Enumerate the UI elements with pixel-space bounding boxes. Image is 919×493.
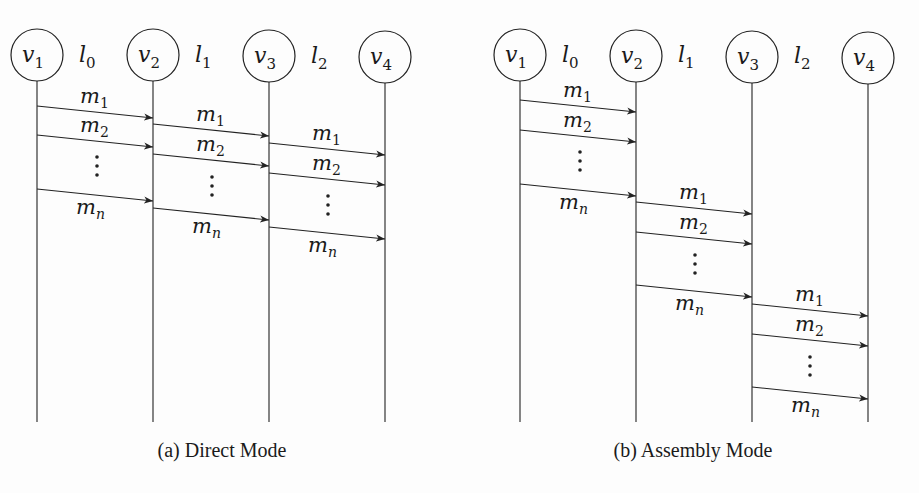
message-m2-label-subscript: 2 bbox=[216, 143, 225, 159]
message-mn-label-subscript: n bbox=[96, 206, 105, 222]
message-m1-label: m1 bbox=[795, 282, 824, 309]
message-mn-label-main: m bbox=[791, 393, 811, 417]
message-mn-label-subscript: n bbox=[811, 404, 820, 420]
link-l1-label: l1 bbox=[678, 42, 695, 72]
message-m2-label: m2 bbox=[312, 151, 341, 178]
message-m1-label: m1 bbox=[196, 102, 225, 129]
message-mn-label-subscript: n bbox=[212, 225, 221, 241]
message-m1-label: m1 bbox=[312, 121, 341, 148]
message-mn-label-main: m bbox=[308, 233, 328, 257]
message-m1-label-subscript: 1 bbox=[699, 191, 708, 207]
link-l0-label: l0 bbox=[79, 42, 96, 72]
caption-b: (b) Assembly Mode bbox=[614, 439, 773, 462]
message-m1-label-main: m bbox=[80, 84, 100, 108]
node-v1-label-main: v bbox=[22, 42, 35, 67]
message-mn-label: mn bbox=[791, 393, 820, 420]
message-m2-label: m2 bbox=[679, 210, 708, 237]
node-v3-label-subscript: 3 bbox=[266, 55, 276, 73]
node-v2-label-subscript: 2 bbox=[150, 54, 160, 72]
node-v3-label: v3 bbox=[737, 44, 759, 74]
node-v1-label: v1 bbox=[505, 42, 527, 72]
assembly-mode-figure: v1v2v3v4l0l1l2m1m2mnm1m2mnm1m2mn(b) Asse… bbox=[494, 29, 894, 462]
node-v3-label-subscript: 3 bbox=[749, 56, 759, 74]
link-l1-label: l1 bbox=[195, 42, 212, 72]
message-m1-label-main: m bbox=[312, 121, 332, 145]
message-mn-label-main: m bbox=[192, 214, 212, 238]
message-m1-label: m1 bbox=[563, 78, 592, 105]
message-m2-label-subscript: 2 bbox=[100, 124, 109, 140]
link-l0-label-main: l bbox=[562, 42, 569, 67]
node-v4-label-main: v bbox=[853, 45, 866, 70]
node-v2-label-subscript: 2 bbox=[633, 55, 643, 73]
node-v3-label: v3 bbox=[254, 43, 276, 73]
vertical-ellipsis-icon bbox=[95, 155, 99, 177]
message-mn-label-main: m bbox=[675, 291, 695, 315]
direct-mode-figure: v1v2v3v4l0l1l2m1m2mnm1m2mnm1m2mn(a) Dire… bbox=[11, 29, 411, 462]
message-mn-label: mn bbox=[675, 291, 704, 318]
caption-a: (a) Direct Mode bbox=[158, 439, 287, 462]
message-m2-label-main: m bbox=[80, 113, 100, 137]
message-mn-label-subscript: n bbox=[328, 244, 337, 260]
vertical-ellipsis-icon bbox=[326, 194, 330, 216]
link-l2-label: l2 bbox=[794, 43, 811, 73]
message-m1-label-subscript: 1 bbox=[583, 89, 592, 105]
node-v1-label-subscript: 1 bbox=[34, 54, 44, 72]
message-m1-label: m1 bbox=[679, 180, 708, 207]
message-m2-label-subscript: 2 bbox=[699, 221, 708, 237]
message-mn-label-subscript: n bbox=[695, 302, 704, 318]
diagram-canvas: v1v2v3v4l0l1l2m1m2mnm1m2mnm1m2mn(a) Dire… bbox=[0, 0, 919, 493]
message-m2-label-main: m bbox=[795, 312, 815, 336]
message-mn-label-main: m bbox=[559, 190, 579, 214]
message-mn-label: mn bbox=[308, 233, 337, 260]
message-m2-label-subscript: 2 bbox=[332, 162, 341, 178]
message-m2-label: m2 bbox=[196, 132, 225, 159]
node-v3-label-main: v bbox=[737, 44, 750, 69]
message-m2-label-subscript: 2 bbox=[815, 323, 824, 339]
vertical-ellipsis-icon bbox=[808, 355, 812, 377]
link-l1-label-subscript: 1 bbox=[202, 54, 212, 72]
link-l1-label-main: l bbox=[678, 42, 685, 67]
message-m2-label-subscript: 2 bbox=[583, 119, 592, 135]
node-v4-label-main: v bbox=[370, 44, 383, 69]
message-m2-label-main: m bbox=[312, 151, 332, 175]
message-m2-label-main: m bbox=[196, 132, 216, 156]
link-l0-label-subscript: 0 bbox=[569, 54, 579, 72]
message-m1-label-main: m bbox=[795, 282, 815, 306]
node-v4-label-subscript: 4 bbox=[865, 57, 875, 75]
link-l2-label-subscript: 2 bbox=[318, 55, 328, 73]
message-m1-label-subscript: 1 bbox=[216, 113, 225, 129]
message-m1-label-main: m bbox=[679, 180, 699, 204]
message-m1-label-subscript: 1 bbox=[332, 132, 341, 148]
link-l2-label-subscript: 2 bbox=[801, 55, 811, 73]
link-l0-label-main: l bbox=[79, 42, 86, 67]
link-l0-label-subscript: 0 bbox=[86, 54, 96, 72]
message-m1-label-subscript: 1 bbox=[100, 95, 109, 111]
node-v1-label-subscript: 1 bbox=[517, 54, 527, 72]
vertical-ellipsis-icon bbox=[693, 253, 697, 275]
node-v2-label: v2 bbox=[621, 43, 643, 73]
message-m2-label: m2 bbox=[795, 312, 824, 339]
node-v1-label-main: v bbox=[505, 42, 518, 67]
link-l2-label: l2 bbox=[311, 43, 328, 73]
node-v1-label: v1 bbox=[22, 42, 44, 72]
node-v4-label: v4 bbox=[370, 44, 392, 74]
message-mn-label: mn bbox=[192, 214, 221, 241]
link-l2-label-main: l bbox=[794, 43, 801, 68]
vertical-ellipsis-icon bbox=[210, 175, 214, 197]
message-m2-label-main: m bbox=[563, 108, 583, 132]
node-v2-label-main: v bbox=[138, 42, 151, 67]
link-l1-label-main: l bbox=[195, 42, 202, 67]
node-v2-label: v2 bbox=[138, 42, 160, 72]
message-m2-label: m2 bbox=[563, 108, 592, 135]
node-v4-label-subscript: 4 bbox=[382, 56, 392, 74]
node-v2-label-main: v bbox=[621, 43, 634, 68]
message-mn-label-subscript: n bbox=[579, 201, 588, 217]
message-m2-label: m2 bbox=[80, 113, 109, 140]
message-m1-label-main: m bbox=[563, 78, 583, 102]
message-m1-label-subscript: 1 bbox=[815, 293, 824, 309]
message-m1-label-main: m bbox=[196, 102, 216, 126]
node-v4-label: v4 bbox=[853, 45, 875, 75]
message-m1-label: m1 bbox=[80, 84, 109, 111]
link-l2-label-main: l bbox=[311, 43, 318, 68]
message-m2-label-main: m bbox=[679, 210, 699, 234]
